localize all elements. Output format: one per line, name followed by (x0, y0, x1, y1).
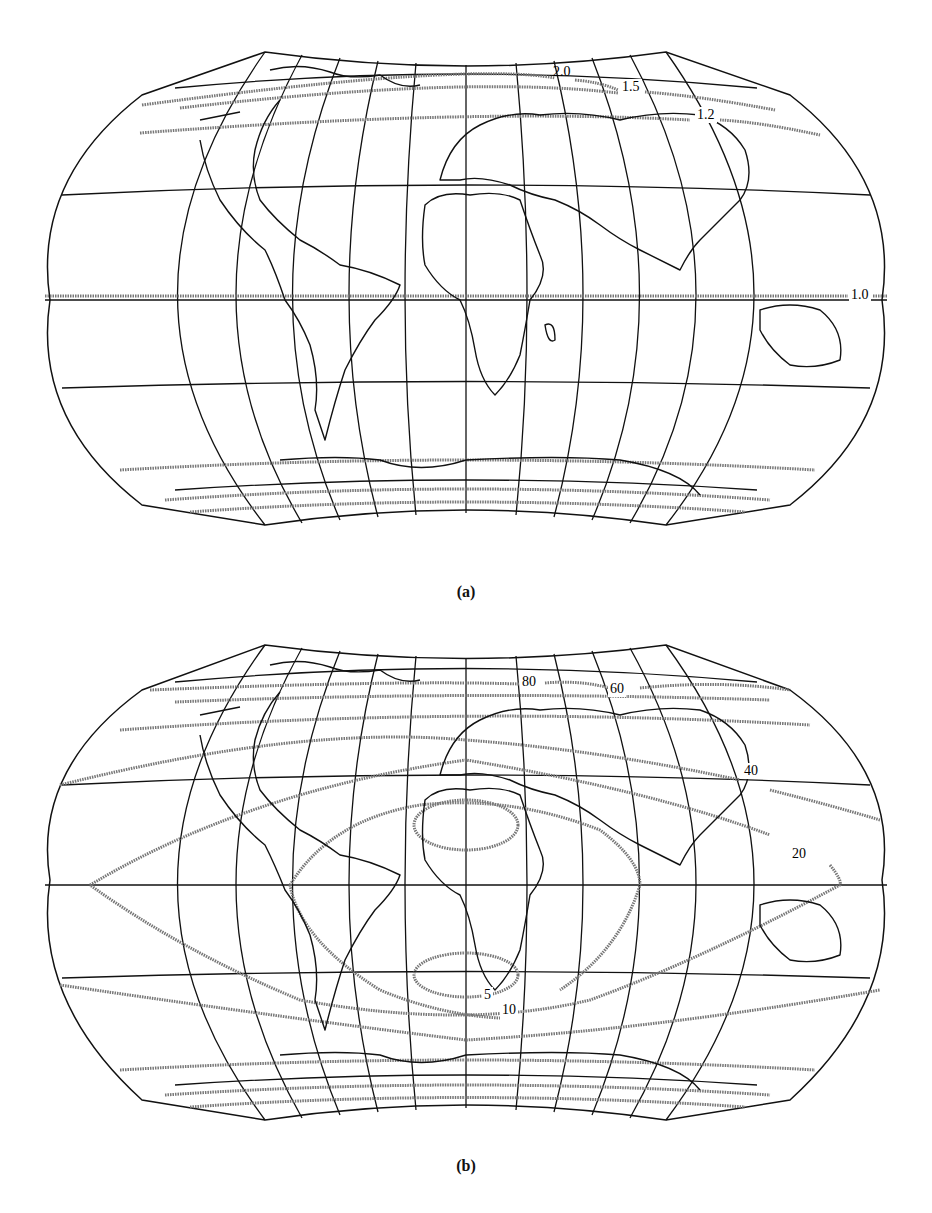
isoline-label-1-2: 1.2 (695, 107, 717, 123)
isoline-label-80: 80 (520, 674, 538, 690)
figure-caption-a: (a) (0, 583, 932, 601)
map-figure-a (0, 0, 932, 600)
isoline-label-20: 20 (790, 846, 808, 862)
isoline-label-5: 5 (482, 987, 493, 1003)
isoline-label-1-0: 1.0 (849, 287, 871, 303)
map-figure-b (0, 608, 932, 1148)
isoline-label-2-0: 2.0 (553, 64, 571, 80)
isoline-label-1-5: 1.5 (620, 79, 642, 95)
figure-caption-b: (b) (0, 1157, 932, 1175)
isoline-label-10: 10 (500, 1002, 518, 1018)
world-map-a (0, 0, 932, 600)
world-map-b (0, 608, 932, 1148)
isoline-label-60: 60 (608, 681, 626, 697)
isoline-label-40: 40 (742, 763, 760, 779)
